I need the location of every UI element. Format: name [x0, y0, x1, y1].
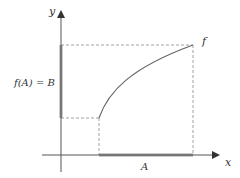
y-axis-label: y [48, 5, 56, 18]
function-label: f [201, 35, 208, 48]
dashed-guides [61, 45, 193, 155]
range-label: f(A) = B [13, 77, 55, 88]
x-axis-label: x [225, 156, 232, 169]
domain-label: A [140, 161, 148, 172]
function-diagram: y x f f(A) = B A [0, 0, 240, 178]
function-curve [99, 45, 193, 118]
